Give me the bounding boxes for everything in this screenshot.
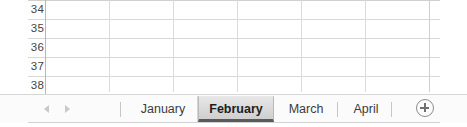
bottom-filler <box>0 123 467 127</box>
triangle-right-icon[interactable] <box>65 105 70 113</box>
grid-row[interactable]: 37 <box>0 57 467 76</box>
row-header-37[interactable]: 37 <box>28 57 44 76</box>
plus-vertical-bar <box>424 103 426 112</box>
triangle-left-icon[interactable] <box>44 105 49 113</box>
sheet-navigation-arrows[interactable] <box>34 97 110 122</box>
row-header-36[interactable]: 36 <box>28 38 44 57</box>
tab-separator <box>391 102 392 117</box>
column-gridline <box>429 0 430 92</box>
column-gridline <box>301 0 302 92</box>
column-gridline <box>173 0 174 92</box>
grid-row[interactable]: 35 <box>0 19 467 38</box>
sheet-tab-march[interactable]: March <box>276 96 336 122</box>
row-header-35[interactable]: 35 <box>28 19 44 38</box>
tab-separator <box>337 102 338 117</box>
plus-circle-icon[interactable] <box>416 99 434 117</box>
sheet-tab-january[interactable]: January <box>128 96 198 122</box>
row-header-38[interactable]: 38 <box>28 76 44 94</box>
column-gridline <box>109 0 110 92</box>
sheet-tab-april[interactable]: April <box>340 96 392 122</box>
row-header-34[interactable]: 34 <box>28 0 44 19</box>
column-gridline <box>365 0 366 92</box>
sheet-tab-february[interactable]: February <box>198 96 274 122</box>
column-gridline <box>237 0 238 92</box>
sheet-tab-bar: January February March April <box>0 94 467 123</box>
grid-row[interactable]: 36 <box>0 38 467 57</box>
row-header-divider <box>45 0 46 94</box>
tab-separator <box>120 102 121 117</box>
worksheet-grid[interactable]: 34 35 36 37 38 <box>0 0 467 94</box>
grid-row[interactable]: 38 <box>0 76 467 94</box>
grid-row[interactable]: 34 <box>0 0 467 19</box>
spreadsheet-bottom-pane: 34 35 36 37 38 <box>0 0 467 127</box>
